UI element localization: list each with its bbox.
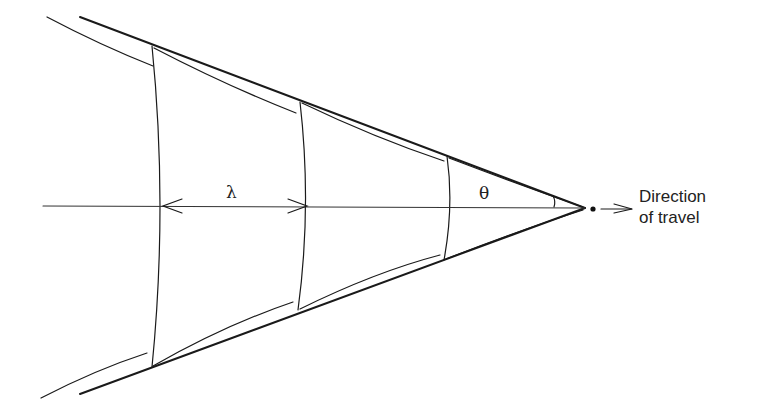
wavelength-label: λ: [226, 182, 237, 202]
caption-line-2: of travel: [639, 207, 706, 228]
wavefront-2: [298, 102, 306, 310]
lower-wake-line: [80, 208, 585, 394]
angle-label: θ: [479, 183, 489, 203]
wavefront-1-upper-trail: [154, 48, 296, 113]
center-axis: [43, 206, 585, 208]
angle-arc: [553, 196, 555, 207]
source-point: [590, 206, 595, 211]
wavefront-1-lower-trail: [153, 302, 293, 366]
upper-wake-line: [80, 17, 585, 208]
wavefront-2-lower-trail: [300, 255, 440, 309]
lambda-arrow-right: [288, 199, 307, 213]
caption-line-1: Direction: [639, 186, 706, 207]
wavefront-2-upper-trail: [302, 103, 444, 161]
direction-caption: Direction of travel: [639, 186, 706, 228]
wavefront-3-upper-trail: [449, 158, 583, 207]
